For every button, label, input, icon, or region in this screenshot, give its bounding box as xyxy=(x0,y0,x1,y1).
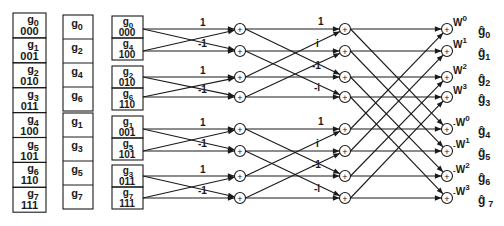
plus-icon: + xyxy=(237,25,242,35)
adder-node-s1-r1: + xyxy=(235,46,246,57)
reversed-bits: 010 xyxy=(119,77,136,88)
output-g-hat-5: ĝ5 xyxy=(478,146,490,162)
weight-labels: 1-11-11-11-11i-1-i1i-1-iW0W1W2W3-W0-W1-W… xyxy=(198,14,470,197)
plus-icon: + xyxy=(237,194,242,204)
plus-icon: + xyxy=(342,194,347,204)
reversed-bits: 101 xyxy=(119,149,136,160)
twiddle-factor: -W3 xyxy=(453,183,470,197)
adder-node-s3-r1: + xyxy=(442,46,453,57)
reversed-bits: 100 xyxy=(119,49,136,60)
plus-icon: + xyxy=(237,47,242,57)
adder-node-s2-r0: + xyxy=(340,24,351,35)
plus-icon: + xyxy=(237,172,242,182)
plus-icon: + xyxy=(444,93,449,103)
plus-icon: + xyxy=(237,93,242,103)
reversed-cell-g3: g3011 xyxy=(112,165,143,187)
adder-node-s2-r1: + xyxy=(340,46,351,57)
input-column-natural-order: g0000g1001g2010g3011g4100g5101g6110g7111 xyxy=(13,13,46,212)
stage2-weight: -1 xyxy=(312,60,321,71)
output-g-hat-3: ĝ3 xyxy=(478,92,490,108)
reversed-cell-g0: g0000 xyxy=(112,16,143,38)
input-bits: 110 xyxy=(21,174,39,186)
input-cell-g0: g0000 xyxy=(13,13,46,38)
reversed-bits: 000 xyxy=(119,27,136,38)
stage2-weight: -i xyxy=(314,183,320,194)
input-cell-g2: g2010 xyxy=(13,63,46,88)
plus-icon: + xyxy=(444,194,449,204)
plus-icon: + xyxy=(342,147,347,157)
input-cell-g1: g1001 xyxy=(13,38,46,63)
reversed-bits: 110 xyxy=(119,99,136,110)
stage1-weight: 1 xyxy=(200,65,206,76)
stage1-weight: 1 xyxy=(200,17,206,28)
adder-node-s3-r3: + xyxy=(442,92,453,103)
reversed-bits: 011 xyxy=(119,176,136,187)
plus-icon: + xyxy=(342,125,347,135)
stage2-weight: i xyxy=(316,138,319,149)
input-bits: 111 xyxy=(21,199,38,211)
output-g-hat-7: ĝ7 xyxy=(478,193,493,209)
stage2-weight: -i xyxy=(314,82,320,93)
adder-node-s3-r6: + xyxy=(442,171,453,182)
output-g-hat-0: ĝ0 xyxy=(478,24,490,40)
reversed-cell-g5: g5101 xyxy=(112,138,143,160)
plus-icon: + xyxy=(444,147,449,157)
twiddle-factor: W2 xyxy=(453,62,467,76)
butterfly-wires xyxy=(143,29,443,198)
adder-node-s2-r6: + xyxy=(340,171,351,182)
plus-icon: + xyxy=(342,47,347,57)
reversed-cell-g2: g2010 xyxy=(112,66,143,88)
input-bits: 101 xyxy=(20,150,38,162)
input-bits: 011 xyxy=(21,100,39,112)
adder-node-s3-r4: + xyxy=(442,124,453,135)
input-cell-g6: g6110 xyxy=(13,162,46,187)
twiddle-factor: -W2 xyxy=(453,161,470,175)
plus-icon: + xyxy=(237,73,242,83)
reversed-cell-g6: g6110 xyxy=(112,88,143,110)
adder-node-s2-r5: + xyxy=(340,146,351,157)
plus-icon: + xyxy=(444,25,449,35)
adder-node-s1-r5: + xyxy=(235,146,246,157)
reversed-cell-g7: g7111 xyxy=(112,187,143,209)
input-cell-g7: g7111 xyxy=(13,187,46,212)
input-bits: 001 xyxy=(20,50,38,62)
output-g-hat-4: ĝ4 xyxy=(478,124,490,140)
stage1-weight: -1 xyxy=(198,185,207,196)
split-cell-g2: g2 xyxy=(71,41,83,56)
input-cell-g5: g5101 xyxy=(13,138,46,163)
adder-node-s1-r6: + xyxy=(235,171,246,182)
stage1-weight: -1 xyxy=(198,38,207,49)
input-bits: 010 xyxy=(20,75,38,87)
split-cell-g5: g5 xyxy=(71,163,83,178)
plus-icon: + xyxy=(342,25,347,35)
input-cell-g4: g4100 xyxy=(13,113,46,138)
split-cell-g1: g1 xyxy=(71,115,83,130)
adder-node-s3-r7: + xyxy=(442,193,453,204)
adder-node-s3-r2: + xyxy=(442,72,453,83)
plus-icon: + xyxy=(444,172,449,182)
fft-butterfly-diagram: g0000g1001g2010g3011g4100g5101g6110g7111… xyxy=(0,0,504,226)
output-g-hat-6: ĝ6 xyxy=(478,171,490,187)
stage1-weight: 1 xyxy=(200,164,206,175)
twiddle-factor: W3 xyxy=(453,82,467,96)
stage1-weight: 1 xyxy=(200,117,206,128)
plus-icon: + xyxy=(342,73,347,83)
stage1-weight: -1 xyxy=(198,84,207,95)
adder-node-s1-r2: + xyxy=(235,72,246,83)
split-cell-g4: g4 xyxy=(71,65,83,80)
input-cell-g3: g3011 xyxy=(13,88,46,113)
adder-node-s2-r2: + xyxy=(340,72,351,83)
stage2-weight: 1 xyxy=(318,116,324,127)
output-g-hat-2: ĝ2 xyxy=(478,72,490,88)
adder-node-s2-r7: + xyxy=(340,193,351,204)
adder-node-s1-r3: + xyxy=(235,92,246,103)
reversed-cell-g1: g1001 xyxy=(112,116,143,138)
even-odd-split-column: g0g2g4g6g1g3g5g7 xyxy=(63,15,93,209)
stage2-weight: -1 xyxy=(312,159,321,170)
twiddle-factor: W0 xyxy=(453,14,467,28)
output-labels: ĝ0ĝ1ĝ2ĝ3ĝ4ĝ5ĝ6ĝ7 xyxy=(478,24,493,209)
stage2-weight: i xyxy=(316,38,319,49)
adder-node-s3-r5: + xyxy=(442,146,453,157)
plus-icon: + xyxy=(342,172,347,182)
output-g-hat-1: ĝ1 xyxy=(478,46,490,62)
